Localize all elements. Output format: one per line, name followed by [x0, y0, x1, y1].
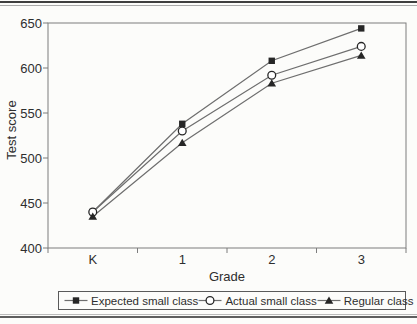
series-line: [93, 55, 362, 216]
y-tick-label: 550: [20, 106, 42, 121]
x-tick-label: 2: [268, 252, 275, 267]
square-marker-icon: [73, 297, 79, 303]
legend-item: Expected small class: [64, 295, 198, 307]
square-marker-icon: [179, 121, 185, 127]
triangle-marker-icon: [357, 51, 366, 58]
square-marker-icon: [358, 25, 364, 31]
legend-circle-open-icon: [198, 295, 222, 306]
triangle-marker-icon: [178, 139, 187, 146]
x-tick-label: 3: [358, 252, 365, 267]
series-line: [93, 46, 362, 212]
legend-label: Actual small class: [225, 295, 316, 307]
square-marker-icon: [269, 58, 275, 64]
open-circle-marker-icon: [206, 297, 214, 305]
y-tick-label: 400: [20, 241, 42, 256]
legend-triangle-icon: [317, 295, 341, 306]
x-axis-title: Grade: [209, 269, 245, 284]
y-tick-label: 450: [20, 196, 42, 211]
chart-legend: Expected small classActual small classRe…: [58, 291, 406, 310]
plot-border: [48, 23, 406, 248]
x-tick-label: K: [88, 252, 97, 267]
bottom-rule-thin: [0, 314, 417, 315]
legend-item: Regular class: [317, 295, 414, 307]
open-circle-marker-icon: [268, 71, 276, 79]
legend-square-icon: [64, 295, 88, 306]
open-circle-marker-icon: [357, 43, 365, 51]
legend-item: Actual small class: [198, 295, 316, 307]
y-tick-label: 600: [20, 61, 42, 76]
open-circle-marker-icon: [178, 127, 186, 135]
scanned-figure-page: 400450500550600650K123 Test score Grade …: [0, 0, 417, 324]
legend-label: Expected small class: [91, 295, 198, 307]
y-axis-title: Test score: [4, 100, 19, 159]
y-tick-label: 500: [20, 151, 42, 166]
legend-label: Regular class: [344, 295, 414, 307]
x-tick-label: 1: [179, 252, 186, 267]
bottom-rule-thick: [0, 316, 417, 318]
series-line: [93, 28, 362, 212]
y-tick-label: 650: [20, 16, 42, 31]
